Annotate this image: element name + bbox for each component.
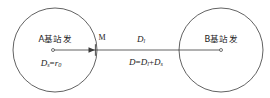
total-formula-term2-sub: s [160,60,162,67]
center-dot-b [220,49,223,52]
point-label-m: M [98,34,105,42]
segment-label-sub: l [143,37,145,44]
diagram-canvas: A基站发 Ds=r0 B基站发 M Dl D=Dl+Ds [0,0,270,98]
station-label-a: A基站发 [38,35,71,44]
center-dot-a [52,49,55,52]
segment-label-dl: Dl [137,35,145,44]
radius-formula-value-sub: 0 [58,61,61,68]
diagram-vector-layer [0,0,270,98]
station-label-b: B基站发 [204,35,237,44]
radius-formula-a: Ds=r0 [41,59,62,68]
total-distance-formula: D=Dl+Ds [129,58,163,67]
